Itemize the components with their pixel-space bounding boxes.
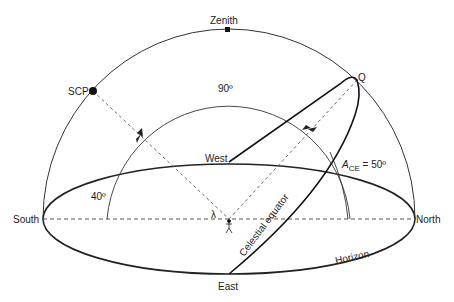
- zenith-marker: [225, 27, 230, 32]
- q-line: [229, 80, 357, 219]
- south-label: South: [13, 214, 39, 225]
- north-label: North: [416, 214, 440, 225]
- celestial-sphere-diagram: Zenith SCP Q South North West East 90º 4…: [0, 0, 454, 302]
- angle-90-label: 90º: [218, 83, 233, 94]
- q-label: Q: [358, 72, 366, 83]
- angle-90-arc: [107, 106, 350, 219]
- lambda-label: λ: [211, 209, 216, 220]
- ace-label: ACE = 50º: [341, 159, 386, 173]
- west-label: West: [205, 153, 228, 164]
- scp-marker: [89, 87, 97, 95]
- east-label: East: [218, 281, 238, 292]
- angle-40-label: 40º: [91, 191, 106, 202]
- zenith-label: Zenith: [210, 15, 238, 26]
- scp-label: SCP: [68, 86, 89, 97]
- horizon-label: Horizon: [334, 248, 370, 266]
- observer-icon: [226, 220, 232, 234]
